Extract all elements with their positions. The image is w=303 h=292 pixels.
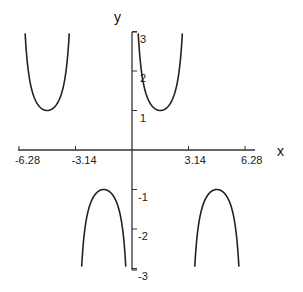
ticks: -6.28-3.143.146.28321-1-2-3 <box>15 32 263 282</box>
y-axis-label: y <box>114 9 121 25</box>
axes: x y <box>18 9 284 270</box>
x-tick-label: 3.14 <box>185 154 206 166</box>
x-tick-label: -3.14 <box>71 154 96 166</box>
y-tick-label: 1 <box>140 112 146 124</box>
x-tick-label: 6.28 <box>241 154 262 166</box>
csc-curve-branch <box>82 190 126 267</box>
y-tick-label: 3 <box>140 33 146 45</box>
y-tick-label: -1 <box>138 191 148 203</box>
csc-curve-branch <box>195 190 239 267</box>
y-tick-label: -3 <box>138 270 148 282</box>
csc-function-plot: x y -6.28-3.143.146.28321-1-2-3 <box>0 0 303 292</box>
csc-curve-branch <box>25 33 69 110</box>
x-axis-label: x <box>277 143 284 159</box>
y-tick-label: -2 <box>138 230 148 242</box>
x-tick-label: -6.28 <box>15 154 40 166</box>
